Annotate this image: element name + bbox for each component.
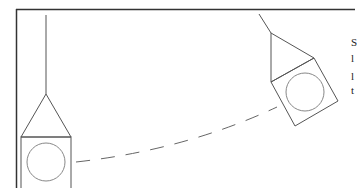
- right-bob-circle: [286, 73, 324, 111]
- right-square: [271, 58, 338, 126]
- caption-line-3: l: [351, 71, 354, 82]
- caption-line-2: l: [351, 53, 354, 64]
- right-triangle: [271, 33, 314, 82]
- caption-line-1: S: [351, 37, 357, 48]
- right-string: [259, 14, 271, 33]
- left-pendulum: [21, 15, 71, 188]
- left-triangle: [21, 94, 71, 137]
- left-square: [21, 137, 71, 188]
- right-pendulum: [259, 14, 338, 126]
- caption-line-4: t: [351, 85, 354, 96]
- left-bob-circle: [27, 143, 65, 181]
- swing-arc: [76, 107, 277, 162]
